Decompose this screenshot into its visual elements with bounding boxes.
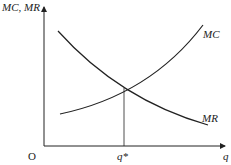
mr-label: MR bbox=[201, 112, 218, 124]
mc-curve bbox=[60, 25, 203, 114]
mc-label: MC bbox=[202, 28, 220, 40]
x-axis-label: q bbox=[223, 150, 229, 162]
q-star-label: q* bbox=[117, 150, 129, 162]
mc-mr-diagram: MC, MR MC MR O q* q bbox=[0, 0, 231, 165]
y-axis-label: MC, MR bbox=[1, 1, 40, 13]
origin-label: O bbox=[28, 150, 36, 162]
